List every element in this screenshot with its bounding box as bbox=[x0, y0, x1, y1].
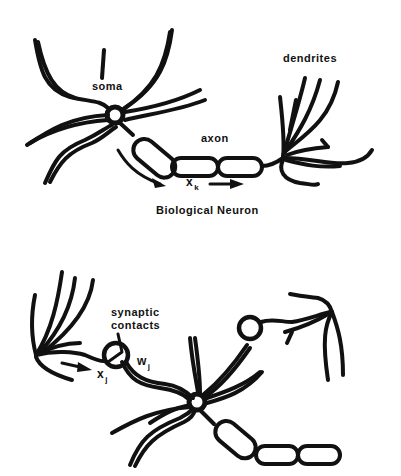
dendrites-label: dendrites bbox=[283, 53, 337, 64]
input-symbol: x bbox=[97, 367, 104, 381]
weight-wj-label: wj bbox=[137, 355, 150, 367]
diagram-title: Biological Neuron bbox=[156, 205, 259, 216]
contacts-label: contacts bbox=[111, 320, 160, 331]
neuron-diagram: soma axon dendrites xk Biological Neuron… bbox=[0, 0, 401, 476]
input-subscript: j bbox=[105, 375, 108, 384]
signal-subscript: k bbox=[194, 183, 199, 192]
signal-symbol: x bbox=[186, 175, 193, 189]
signal-xk-label: xk bbox=[186, 176, 198, 188]
weight-symbol: w bbox=[137, 354, 147, 368]
input-xj-label: xj bbox=[97, 368, 107, 380]
soma-label: soma bbox=[92, 81, 123, 92]
neuron-drawing bbox=[0, 0, 401, 476]
axon-label: axon bbox=[201, 133, 229, 144]
synaptic-label: synaptic bbox=[111, 307, 160, 318]
weight-subscript: j bbox=[148, 362, 151, 371]
bottom-neuron bbox=[32, 272, 343, 466]
